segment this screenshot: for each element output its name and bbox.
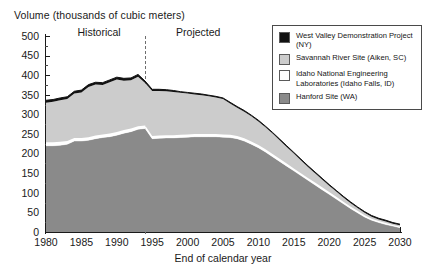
legend-item[interactable]: West Valley Demonstration Project (NY) <box>279 31 416 49</box>
y-tick-label: 350 <box>21 90 46 101</box>
x-tick-label: 1990 <box>105 236 128 248</box>
x-tick-label: 2010 <box>247 236 270 248</box>
x-axis-title-wrap: End of calendar year <box>0 252 426 264</box>
y-tick-label: 250 <box>21 129 46 140</box>
y-tick-label: 150 <box>21 168 46 179</box>
y-tick-label: 300 <box>21 109 46 120</box>
y-axis-title: Volume (thousands of cubic meters) <box>14 9 185 21</box>
x-tick-label: 1995 <box>141 236 164 248</box>
x-tick-label: 2025 <box>353 236 376 248</box>
legend-swatch-icon <box>279 70 290 81</box>
x-axis-title: End of calendar year <box>175 252 272 264</box>
legend-label: Hanford Site (WA) <box>296 92 357 101</box>
x-tick-label: 2020 <box>318 236 341 248</box>
x-axis-line <box>45 232 402 233</box>
x-tick-label: 1980 <box>34 236 57 248</box>
y-tick-label: 450 <box>21 50 46 61</box>
legend-swatch-icon <box>279 54 290 65</box>
legend-swatch-icon <box>279 32 290 43</box>
x-tick-label: 2015 <box>282 236 305 248</box>
y-tick-label: 500 <box>21 31 46 42</box>
y-tick-label: 400 <box>21 70 46 81</box>
x-tick-label: 2000 <box>176 236 199 248</box>
x-tick-mark <box>400 227 401 232</box>
chart-figure: Volume (thousands of cubic meters) 50045… <box>0 0 426 277</box>
x-tick-label: 1985 <box>70 236 93 248</box>
legend-item[interactable]: Hanford Site (WA) <box>279 92 416 104</box>
legend-label: Idaho National Engineering Laboratories … <box>296 69 416 87</box>
chart-legend: West Valley Demonstration Project (NY)Sa… <box>272 25 422 110</box>
legend-item[interactable]: Savannah River Site (Aiken, SC) <box>279 53 416 65</box>
y-tick-mark <box>45 232 50 233</box>
x-tick-label: 2030 <box>388 236 411 248</box>
legend-swatch-icon <box>279 93 290 104</box>
y-tick-label: 200 <box>21 148 46 159</box>
y-tick-label: 100 <box>21 188 46 199</box>
legend-label: Savannah River Site (Aiken, SC) <box>296 53 406 62</box>
y-tick-label: 50 <box>27 207 46 218</box>
area-series <box>46 129 400 232</box>
legend-item[interactable]: Idaho National Engineering Laboratories … <box>279 69 416 87</box>
x-tick-label: 2005 <box>211 236 234 248</box>
legend-label: West Valley Demonstration Project (NY) <box>296 31 416 49</box>
